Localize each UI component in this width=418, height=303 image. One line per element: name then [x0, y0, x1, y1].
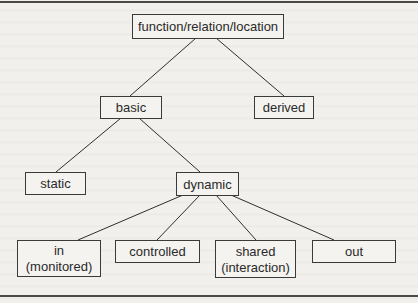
node-label: static [40, 177, 70, 190]
edge-basic-dynamic [139, 118, 200, 172]
edge-dynamic-out [231, 195, 334, 240]
node-in-monitored: in (monitored) [17, 240, 101, 277]
node-out: out [312, 240, 396, 263]
edge-dynamic-in [78, 195, 183, 240]
node-label: basic [116, 101, 146, 114]
node-label: dynamic [183, 178, 231, 191]
node-label: out [345, 245, 363, 258]
node-static: static [25, 172, 86, 195]
node-label-line-1: shared [236, 245, 276, 258]
node-dynamic: dynamic [176, 172, 239, 196]
node-controlled: controlled [115, 240, 200, 263]
edge-dynamic-controlled [157, 195, 200, 240]
node-label-line-2: (interaction) [221, 261, 290, 274]
node-label: function/relation/location [138, 20, 278, 33]
node-derived: derived [254, 96, 314, 119]
node-label: derived [263, 101, 306, 114]
node-label-line-2: (monitored) [26, 260, 92, 273]
node-function-relation-location: function/relation/location [132, 14, 284, 39]
node-label-line-1: in [54, 244, 64, 257]
edge-root-basic [130, 38, 196, 96]
node-shared-interaction: shared (interaction) [215, 240, 296, 278]
node-basic: basic [100, 96, 162, 119]
node-label: controlled [129, 245, 185, 258]
edge-root-derived [216, 38, 284, 96]
edge-basic-static [56, 118, 121, 172]
edge-dynamic-shared [216, 195, 256, 240]
